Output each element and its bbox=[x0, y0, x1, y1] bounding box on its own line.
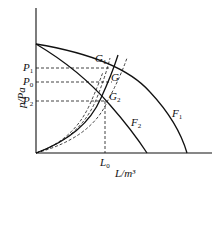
system-curve bbox=[36, 55, 118, 153]
system-curve-dashed-1 bbox=[36, 58, 110, 153]
label-g2: G2 bbox=[109, 91, 120, 104]
x-axis-label: L/m³ bbox=[115, 168, 135, 179]
tick-p0: P0 bbox=[23, 76, 33, 89]
label-g1: G1 bbox=[95, 53, 106, 66]
curve-f2 bbox=[36, 44, 147, 153]
label-g: G bbox=[111, 72, 119, 85]
label-f2: F2 bbox=[131, 117, 141, 130]
tick-p1: P1 bbox=[23, 62, 33, 75]
tick-p2: P2 bbox=[23, 95, 33, 108]
tick-l0: L0 bbox=[100, 157, 110, 170]
label-f1: F1 bbox=[172, 108, 182, 121]
